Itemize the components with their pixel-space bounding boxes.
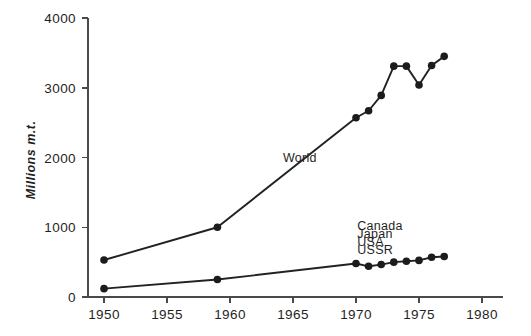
data-point [377, 92, 385, 100]
data-point [100, 285, 108, 293]
x-tick-label-1980: 1980 [466, 307, 498, 322]
line-chart: 4000 3000 2000 1000 0 1950 1955 1960 196… [0, 0, 531, 336]
series-layer [100, 53, 448, 293]
chart-container: 4000 3000 2000 1000 0 1950 1955 1960 196… [0, 0, 531, 336]
y-tick-label-3000: 3000 [44, 81, 76, 96]
data-point [365, 107, 373, 115]
x-tick-label-1970: 1970 [340, 307, 372, 322]
data-point [377, 261, 385, 269]
data-point [214, 276, 222, 284]
data-point [440, 53, 448, 61]
y-tick-label-2000: 2000 [44, 151, 76, 166]
x-tick-label-1965: 1965 [277, 307, 309, 322]
data-point [365, 263, 373, 271]
data-point [428, 253, 436, 261]
data-point [100, 256, 108, 264]
y-ticks-group: 4000 3000 2000 1000 0 [44, 11, 88, 305]
y-axis-title: Millions m.t. [24, 121, 38, 200]
data-point [415, 257, 423, 265]
y-tick-label-0: 0 [68, 290, 76, 305]
y-tick-label-1000: 1000 [44, 220, 76, 235]
data-point [440, 253, 448, 261]
x-ticks-group: 1950 1955 1960 1965 1970 1975 1980 [88, 297, 498, 322]
x-tick-label-1975: 1975 [403, 307, 435, 322]
data-point [352, 260, 360, 268]
data-point [352, 114, 360, 122]
x-tick-label-1955: 1955 [151, 307, 183, 322]
data-point [390, 258, 398, 266]
data-point [390, 62, 398, 70]
annotation-layer: CanadaJapanUSAUSSR [357, 219, 403, 257]
series-label-world: World [283, 151, 317, 165]
data-point [415, 81, 423, 89]
data-point [403, 257, 411, 265]
x-tick-label-1960: 1960 [214, 307, 246, 322]
y-tick-label-4000: 4000 [44, 11, 76, 26]
data-point [214, 223, 222, 231]
x-tick-label-1950: 1950 [88, 307, 120, 322]
data-point [403, 62, 411, 70]
data-point [428, 62, 436, 70]
series-label-ussr: USSR [357, 243, 393, 257]
